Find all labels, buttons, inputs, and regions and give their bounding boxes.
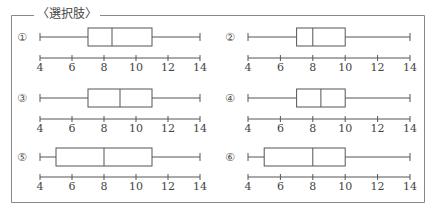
boxplot-3: ③468101214 (17, 89, 207, 135)
tick-label: 8 (309, 61, 316, 74)
tick-label: 14 (403, 61, 417, 74)
choice-label: ④ (225, 92, 235, 105)
tick-label: 10 (338, 180, 352, 193)
tick-label: 12 (161, 61, 175, 74)
tick-label: 10 (129, 122, 143, 135)
tick-label: 6 (69, 180, 76, 193)
tick-label: 12 (371, 180, 385, 193)
tick-label: 8 (309, 122, 316, 135)
tick-label: 4 (37, 61, 44, 74)
tick-label: 6 (277, 122, 284, 135)
frame-title: 〈選択肢〉 (34, 5, 100, 23)
tick-label: 4 (245, 180, 252, 193)
boxplot-choices-figure: ①468101214②468101214③468101214④468101214… (0, 0, 432, 207)
tick-label: 14 (193, 180, 207, 193)
tick-label: 4 (245, 122, 252, 135)
iqr-box (88, 28, 152, 46)
tick-label: 6 (277, 61, 284, 74)
tick-label: 8 (101, 180, 108, 193)
tick-label: 10 (338, 122, 352, 135)
tick-label: 8 (101, 122, 108, 135)
x-axis: 468101214 (37, 116, 208, 135)
x-axis: 468101214 (245, 55, 418, 74)
x-axis: 468101214 (37, 55, 208, 74)
x-axis: 468101214 (245, 116, 418, 135)
choice-label: ③ (17, 92, 27, 105)
boxplot-6: ⑥468101214 (225, 148, 417, 193)
tick-label: 14 (403, 180, 417, 193)
x-axis: 468101214 (245, 174, 418, 193)
tick-label: 12 (371, 122, 385, 135)
boxplot-2: ②468101214 (225, 28, 417, 74)
boxplot-4: ④468101214 (225, 89, 417, 135)
tick-label: 6 (69, 61, 76, 74)
tick-label: 14 (403, 122, 417, 135)
tick-label: 12 (161, 122, 175, 135)
boxplot-5: ⑤468101214 (17, 148, 207, 193)
choice-label: ⑥ (225, 151, 235, 164)
choice-label: ① (17, 31, 27, 44)
tick-label: 6 (69, 122, 76, 135)
iqr-box (297, 28, 346, 46)
x-axis: 468101214 (37, 174, 208, 193)
tick-label: 10 (338, 61, 352, 74)
tick-label: 14 (193, 61, 207, 74)
tick-label: 6 (277, 180, 284, 193)
choice-label: ⑤ (17, 151, 27, 164)
frame-border (12, 16, 425, 203)
tick-label: 8 (101, 61, 108, 74)
tick-label: 4 (37, 122, 44, 135)
choice-label: ② (225, 31, 235, 44)
tick-label: 10 (129, 61, 143, 74)
tick-label: 8 (309, 180, 316, 193)
tick-label: 12 (371, 61, 385, 74)
tick-label: 4 (245, 61, 252, 74)
tick-label: 14 (193, 122, 207, 135)
tick-label: 4 (37, 180, 44, 193)
iqr-box (264, 148, 345, 166)
tick-label: 10 (129, 180, 143, 193)
boxplot-grid: ①468101214②468101214③468101214④468101214… (17, 28, 417, 193)
tick-label: 12 (161, 180, 175, 193)
boxplot-1: ①468101214 (17, 28, 207, 74)
